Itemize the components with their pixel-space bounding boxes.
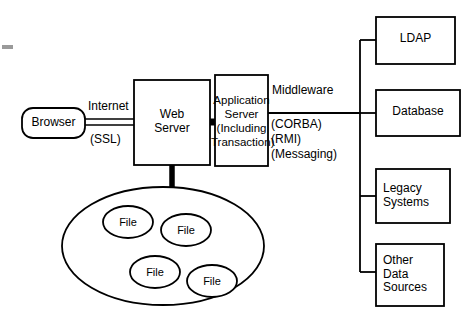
node-app-server-shape[interactable] <box>215 75 268 166</box>
edge-browser-webserver <box>85 119 134 125</box>
node-database-shape[interactable] <box>376 90 460 136</box>
edge-label-internet: Internet <box>88 100 129 114</box>
node-ldap-shape[interactable] <box>376 17 455 64</box>
node-file-4-label: File <box>187 275 237 287</box>
node-other-sources-shape[interactable] <box>376 244 444 306</box>
node-file-1-label: File <box>103 216 153 228</box>
diagram-canvas: Browser Web Server Application Server (I… <box>0 0 468 328</box>
node-web-server-shape[interactable] <box>134 80 210 165</box>
edge-label-middleware: Middleware <box>272 84 333 98</box>
edge-label-ssl: (SSL) <box>90 133 121 147</box>
node-legacy-shape[interactable] <box>376 169 450 223</box>
edge-label-messaging: (Messaging) <box>271 148 337 162</box>
edge-label-corba: (CORBA) <box>271 118 322 132</box>
edge-label-rmi: (RMI) <box>271 133 301 147</box>
node-file-3-label: File <box>130 266 180 278</box>
node-browser-shape[interactable] <box>22 108 85 138</box>
node-file-2-label: File <box>161 224 211 236</box>
